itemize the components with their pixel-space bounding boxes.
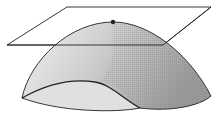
tangent-plane-diagram	[0, 0, 221, 118]
maximum-point	[111, 20, 115, 24]
tangent-plane-right-edge	[163, 7, 211, 45]
